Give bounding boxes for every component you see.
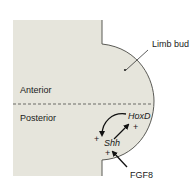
fgf8-label: FGF8	[130, 170, 153, 179]
limb-bud-diagram: Limb bud Anterior Posterior HoxD + Shh +…	[0, 0, 190, 179]
shh-left-plus-sign: +	[94, 134, 99, 144]
hoxd-label: HoxD	[128, 111, 151, 121]
limb-bud-label: Limb bud	[152, 39, 189, 49]
posterior-label: Posterior	[20, 113, 56, 123]
shh-below-plus-sign: +	[105, 148, 110, 158]
hoxd-plus-sign: +	[133, 122, 138, 132]
embryo-tissue	[13, 20, 154, 176]
shh-label: Shh	[104, 138, 120, 148]
limb-bud-dot	[124, 69, 126, 71]
anterior-label: Anterior	[20, 85, 52, 95]
